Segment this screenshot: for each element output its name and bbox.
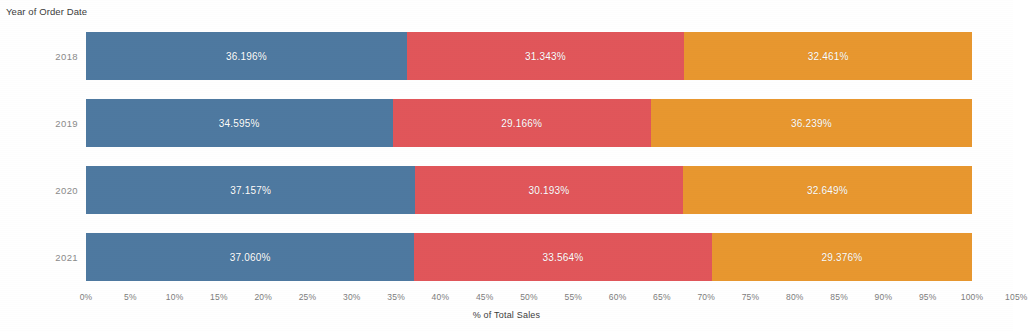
bar-segment-1[interactable]: 37.157%	[86, 166, 415, 214]
x-axis-tick: 35%	[387, 292, 405, 302]
x-axis-tick: 50%	[520, 292, 538, 302]
x-axis-tick: 55%	[564, 292, 582, 302]
bar-segment-2[interactable]: 30.193%	[415, 166, 683, 214]
table-row[interactable]: 2019 34.595% 29.166% 36.239%	[0, 99, 1013, 147]
bar-segment-label: 37.157%	[230, 185, 271, 196]
bar-segment-label: 32.461%	[808, 51, 849, 62]
x-axis-tick: 105%	[1005, 292, 1028, 302]
bar-segment-label: 32.649%	[807, 185, 848, 196]
x-axis-tick: 45%	[476, 292, 494, 302]
x-axis-tick: 10%	[166, 292, 184, 302]
x-axis-tick: 60%	[609, 292, 627, 302]
bar-segment-label: 29.166%	[501, 118, 542, 129]
bar-track: 36.196% 31.343% 32.461%	[86, 32, 972, 80]
x-axis-tick: 40%	[432, 292, 450, 302]
x-axis-tick: 0%	[80, 292, 93, 302]
bar-segment-label: 31.343%	[525, 51, 566, 62]
x-axis: 0%5%10%15%20%25%30%35%40%45%50%55%60%65%…	[0, 292, 1013, 308]
bar-segment-3[interactable]: 32.649%	[683, 166, 972, 214]
bar-segment-2[interactable]: 33.564%	[414, 233, 711, 281]
x-axis-title: % of Total Sales	[0, 310, 1013, 320]
x-axis-tick: 25%	[299, 292, 317, 302]
bar-segment-label: 33.564%	[543, 252, 584, 263]
bar-segment-1[interactable]: 36.196%	[86, 32, 407, 80]
bar-segment-3[interactable]: 36.239%	[651, 99, 972, 147]
x-axis-tick: 20%	[254, 292, 272, 302]
x-axis-tick: 85%	[830, 292, 848, 302]
bar-segment-3[interactable]: 29.376%	[712, 233, 972, 281]
x-axis-tick: 15%	[210, 292, 228, 302]
bar-segment-label: 37.060%	[230, 252, 271, 263]
bar-segment-label: 29.376%	[821, 252, 862, 263]
x-axis-tick: 90%	[875, 292, 893, 302]
row-label-year: 2020	[18, 185, 78, 196]
bar-track: 37.157% 30.193% 32.649%	[86, 166, 972, 214]
row-label-year: 2021	[18, 252, 78, 263]
bar-track: 37.060% 33.564% 29.376%	[86, 233, 972, 281]
bar-segment-2[interactable]: 31.343%	[407, 32, 685, 80]
x-axis-tick: 100%	[961, 292, 984, 302]
bar-segment-label: 36.196%	[226, 51, 267, 62]
x-axis-tick: 75%	[742, 292, 760, 302]
bar-track: 34.595% 29.166% 36.239%	[86, 99, 972, 147]
bar-segment-1[interactable]: 34.595%	[86, 99, 393, 147]
x-axis-tick: 95%	[919, 292, 937, 302]
x-axis-tick: 65%	[653, 292, 671, 302]
bar-segment-label: 34.595%	[219, 118, 260, 129]
x-axis-tick: 5%	[124, 292, 137, 302]
chart-plot-area: 2018 36.196% 31.343% 32.461% 2019 34.595…	[0, 28, 1013, 290]
row-label-year: 2018	[18, 51, 78, 62]
x-axis-tick: 30%	[343, 292, 361, 302]
bar-segment-label: 30.193%	[529, 185, 570, 196]
bar-segment-2[interactable]: 29.166%	[393, 99, 651, 147]
bar-segment-1[interactable]: 37.060%	[86, 233, 414, 281]
bar-segment-3[interactable]: 32.461%	[684, 32, 972, 80]
table-row[interactable]: 2021 37.060% 33.564% 29.376%	[0, 233, 1013, 281]
x-axis-tick: 70%	[697, 292, 715, 302]
table-row[interactable]: 2020 37.157% 30.193% 32.649%	[0, 166, 1013, 214]
field-caption: Year of Order Date	[6, 6, 87, 17]
x-axis-tick: 80%	[786, 292, 804, 302]
row-label-year: 2019	[18, 118, 78, 129]
bar-segment-label: 36.239%	[791, 118, 832, 129]
table-row[interactable]: 2018 36.196% 31.343% 32.461%	[0, 32, 1013, 80]
